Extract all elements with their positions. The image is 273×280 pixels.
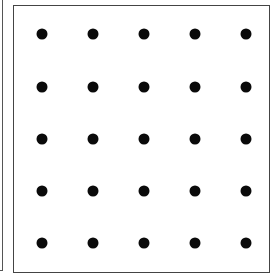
grid-dot-r3-c5 xyxy=(241,134,252,145)
grid-dot-r4-c3 xyxy=(139,186,150,197)
grid-dot-r1-c5 xyxy=(241,29,252,40)
grid-dot-r1-c1 xyxy=(37,29,48,40)
grid-dot-r2-c1 xyxy=(37,82,48,93)
grid-dot-r4-c5 xyxy=(241,186,252,197)
grid-dot-r2-c2 xyxy=(88,82,99,93)
diagram-canvas xyxy=(0,0,273,280)
adjacent-panel-corner xyxy=(0,270,3,271)
grid-dot-r4-c4 xyxy=(190,186,201,197)
grid-dot-r5-c4 xyxy=(190,238,201,249)
grid-dot-r1-c3 xyxy=(139,29,150,40)
adjacent-panel-edge xyxy=(2,0,3,271)
grid-dot-r5-c5 xyxy=(241,238,252,249)
grid-dot-r1-c2 xyxy=(88,29,99,40)
grid-dot-r1-c4 xyxy=(190,29,201,40)
grid-dot-r2-c3 xyxy=(139,82,150,93)
grid-dot-r3-c3 xyxy=(139,134,150,145)
grid-dot-r2-c5 xyxy=(241,82,252,93)
grid-dot-r3-c4 xyxy=(190,134,201,145)
grid-dot-r2-c4 xyxy=(190,82,201,93)
grid-dot-r4-c2 xyxy=(88,186,99,197)
grid-dot-r3-c2 xyxy=(88,134,99,145)
grid-dot-r4-c1 xyxy=(37,186,48,197)
grid-dot-r5-c3 xyxy=(139,238,150,249)
grid-dot-r3-c1 xyxy=(37,134,48,145)
grid-dot-r5-c1 xyxy=(37,238,48,249)
grid-dot-r5-c2 xyxy=(88,238,99,249)
